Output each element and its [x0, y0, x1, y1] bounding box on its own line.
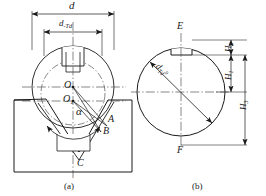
label-h3: H3	[239, 100, 249, 110]
keyway-notch-b	[171, 40, 192, 55]
label-point-f: F	[177, 145, 183, 155]
label-angle-alpha: α	[76, 106, 82, 117]
label-h1: H1	[224, 70, 234, 80]
caption-b: (b)	[192, 181, 203, 191]
label-point-c: C	[77, 158, 84, 168]
label-point-a: A	[108, 114, 114, 124]
label-point-e: E	[177, 21, 183, 31]
caption-a: (a)	[64, 181, 74, 191]
figure-svg	[0, 0, 266, 196]
label-dimension-d-minus-td: d-Td	[59, 19, 72, 29]
technical-drawing-figure: d d-Td O O1 A B C α E F dTd0 H2 H1 H3 (a…	[0, 0, 266, 196]
label-point-o: O	[64, 80, 71, 90]
extension-lines-b	[181, 40, 247, 145]
label-point-b: B	[103, 126, 109, 136]
label-h2: H2	[224, 42, 234, 52]
label-point-o1: O1	[63, 94, 74, 106]
vee-relief-slot	[57, 134, 90, 151]
label-dimension-d: d	[69, 0, 75, 11]
